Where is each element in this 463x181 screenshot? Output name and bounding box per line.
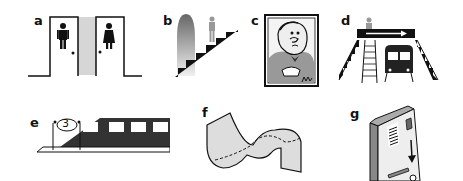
staircase-icon (160, 0, 240, 90)
station-platform-icon (335, 0, 463, 90)
panel-a-restroom-doors: a (0, 0, 160, 90)
platform-number: 3 (62, 117, 69, 130)
panel-b-staircase: b (160, 0, 240, 90)
ticket-machine-icon (320, 90, 463, 181)
panel-e-platform-number: e 3 (0, 90, 170, 181)
winding-road-icon (185, 90, 315, 181)
panel-g-ticket-machine: g (320, 90, 463, 181)
panel-d-platform: d (335, 0, 463, 90)
platform-sign-train-icon (0, 90, 170, 181)
old-man-portrait-icon (240, 0, 335, 90)
restroom-doors-icon (0, 0, 160, 90)
panel-f-winding-road: f (185, 90, 315, 181)
panel-c-portrait: c (240, 0, 335, 90)
